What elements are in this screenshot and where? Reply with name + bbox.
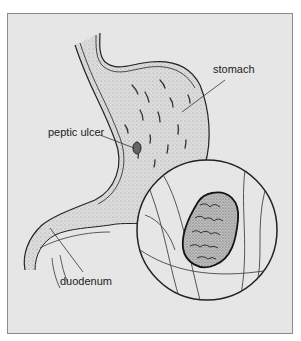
stomach-illustration [0, 0, 301, 341]
magnified-view [137, 160, 277, 300]
peptic-ulcer-spot [133, 142, 141, 154]
label-duodenum: duodenum [60, 275, 112, 287]
label-stomach: stomach [213, 63, 255, 75]
label-peptic-ulcer: peptic ulcer [48, 126, 104, 138]
